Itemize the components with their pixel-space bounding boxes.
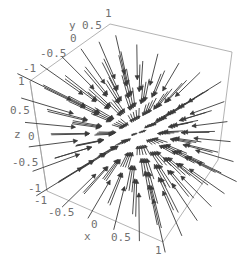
- vector-arrow: [108, 173, 122, 204]
- arrowhead-icon: [194, 136, 198, 140]
- x-tick-label: -0.5: [48, 206, 75, 219]
- vector-arrow: [162, 191, 182, 236]
- vector-arrow: [143, 130, 147, 132]
- vector-arrow: [157, 165, 171, 188]
- vector-arrow: [17, 74, 71, 101]
- z-tick-label: 1: [18, 75, 25, 88]
- vector-arrow: [194, 136, 231, 141]
- arrowhead-icon: [83, 117, 88, 121]
- arrowhead-icon: [121, 187, 125, 191]
- x-tick-label: 0.5: [111, 231, 131, 244]
- arrowhead-icon: [161, 178, 165, 183]
- vector-arrow: [149, 54, 158, 86]
- arrowhead-icon: [196, 149, 201, 153]
- arrowhead-icon: [149, 81, 153, 86]
- vector-arrow: [29, 139, 78, 147]
- vector-arrow: [133, 112, 136, 121]
- arrowhead-icon: [100, 138, 104, 142]
- arrowhead-icon: [101, 79, 105, 84]
- x-axis-ticks: -1-0.500.51: [34, 194, 162, 257]
- z-tick-label: -0.5: [12, 156, 39, 169]
- vector-arrow: [137, 108, 140, 119]
- arrowhead-icon: [73, 139, 77, 143]
- z-tick-label: -1: [28, 182, 41, 195]
- arrowhead-icon: [69, 110, 74, 114]
- arrowhead-icon: [75, 154, 80, 158]
- arrowhead-icon: [134, 134, 136, 136]
- vector-arrow: [175, 72, 200, 96]
- vector-arrow: [48, 111, 87, 122]
- arrowhead-icon: [135, 133, 137, 135]
- vector-arrow: [134, 134, 136, 136]
- arrowhead-icon: [135, 76, 139, 80]
- vector-arrow: [135, 133, 137, 135]
- vector-arrow: [43, 85, 85, 107]
- x-tick-label: 1: [155, 244, 162, 257]
- vector-arrow: [80, 153, 106, 169]
- arrowhead-icon: [153, 91, 157, 96]
- vector-arrow: [134, 179, 138, 216]
- plot-canvas: -1-0.500.51 -1-0.500.51 10.50-0.5-1 x y …: [0, 0, 238, 263]
- y-axis-label: y: [69, 19, 76, 32]
- vector-arrow: [132, 88, 136, 107]
- vector-arrow: [153, 71, 164, 96]
- arrowhead-icon: [145, 145, 148, 148]
- arrowhead-icon: [162, 191, 166, 196]
- z-tick-label: 0: [28, 130, 35, 143]
- vector-arrow: [25, 122, 75, 129]
- y-tick-label: -1: [23, 62, 36, 75]
- z-axis-label: z: [14, 128, 21, 141]
- vector-arrow: [137, 193, 141, 241]
- y-axis-ticks: -1-0.500.51: [23, 7, 112, 75]
- vector-arrow: [106, 160, 120, 181]
- vector-arrow: [163, 63, 179, 91]
- arrowhead-icon: [146, 159, 150, 164]
- vector-arrow: [40, 65, 83, 95]
- arrowhead-icon: [137, 193, 141, 197]
- arrowhead-icon: [190, 111, 195, 115]
- vector-arrow: [104, 59, 119, 90]
- vector-arrow: [135, 110, 138, 120]
- vector-arrow: [190, 102, 224, 115]
- vector-arrow: [99, 42, 115, 79]
- vector-arrow: [184, 130, 215, 134]
- arrowhead-icon: [148, 109, 151, 113]
- vector-arrow: [81, 49, 105, 84]
- vector-arrows: [17, 35, 236, 252]
- vector-arrow: [171, 99, 195, 113]
- arrowhead-icon: [192, 124, 196, 128]
- x-tick-label: -1: [34, 194, 47, 207]
- x-tick-label: 0: [91, 218, 98, 231]
- vector-arrow: [83, 167, 107, 193]
- y-tick-label: 0.5: [82, 19, 102, 32]
- arrowhead-icon: [158, 103, 162, 108]
- z-tick-label: 0.5: [10, 104, 30, 117]
- y-tick-label: 0: [70, 32, 77, 45]
- arrowhead-icon: [143, 130, 145, 132]
- x-axis-label: x: [84, 230, 91, 243]
- vector-arrow: [186, 143, 219, 152]
- y-tick-label: -0.5: [40, 47, 67, 60]
- arrowhead-icon: [71, 125, 75, 129]
- vector-arrow: [181, 176, 212, 207]
- vector-arrow: [33, 154, 80, 172]
- vector-arrow: [135, 45, 139, 80]
- y-tick-label: 1: [105, 7, 112, 20]
- arrowhead-icon: [78, 90, 83, 94]
- vector-field-plot: -1-0.500.51 -1-0.500.51 10.50-0.5-1 x y …: [0, 0, 238, 263]
- vector-arrow: [62, 174, 96, 207]
